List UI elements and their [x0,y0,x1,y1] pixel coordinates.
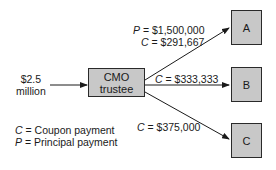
trustee-line2: trustee [100,83,134,95]
legend-principal: P = Principal payment [15,136,117,148]
tranche-b-label: B [243,79,250,91]
flow-c-coupon: C = $375,000 [137,121,200,133]
flow-a-principal: P = $1,500,000 [133,24,205,36]
cmo-trustee-box: CMO trustee [88,68,145,97]
legend-coupon: C = Coupon payment [15,124,115,136]
tranche-c-label: C [243,135,251,147]
input-amount-line1: $2.5 [16,73,46,85]
tranche-a-box: A [231,10,262,45]
input-amount: $2.5 million [16,73,46,97]
flow-b-coupon: C = $333,333 [155,73,218,85]
tranche-b-box: B [231,67,262,102]
input-amount-line2: million [16,85,46,97]
tranche-a-label: A [243,22,250,34]
tranche-c-box: C [231,123,262,158]
flow-a-coupon: C = $291,667 [141,36,204,48]
trustee-line1: CMO [100,71,134,83]
